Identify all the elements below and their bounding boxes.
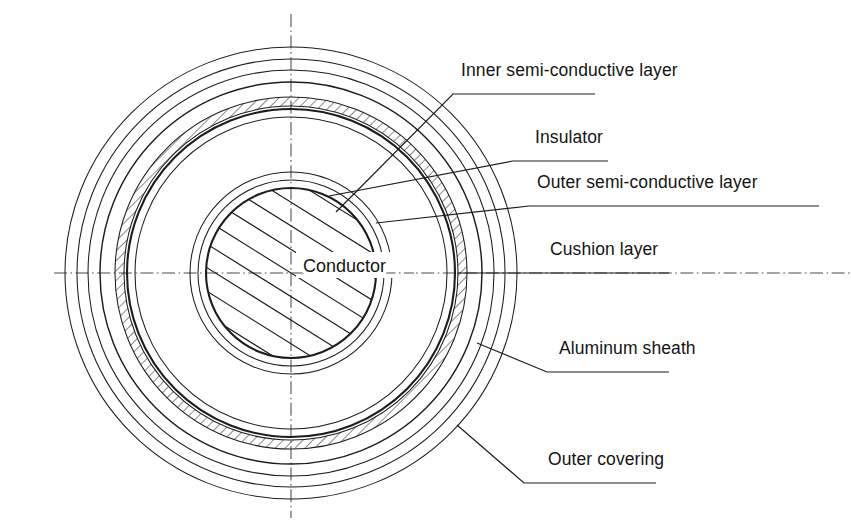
label-insulator: Insulator	[535, 127, 603, 147]
label-outer-covering: Outer covering	[548, 449, 664, 469]
label-conductor: Conductor	[303, 256, 386, 276]
inline-labels: Conductor Conductor	[303, 256, 386, 276]
diagram-page: Inner semi-conductive layer Insulator Ou…	[0, 0, 851, 529]
label-aluminum-sheath: Aluminum sheath	[559, 338, 696, 358]
cable-cross-section-svg: Inner semi-conductive layer Insulator Ou…	[0, 0, 851, 529]
label-outer-semi-conductive-layer: Outer semi-conductive layer	[537, 172, 758, 192]
label-inner-semi-conductive-layer: Inner semi-conductive layer	[461, 60, 678, 80]
label-cushion-layer: Cushion layer	[550, 239, 658, 259]
